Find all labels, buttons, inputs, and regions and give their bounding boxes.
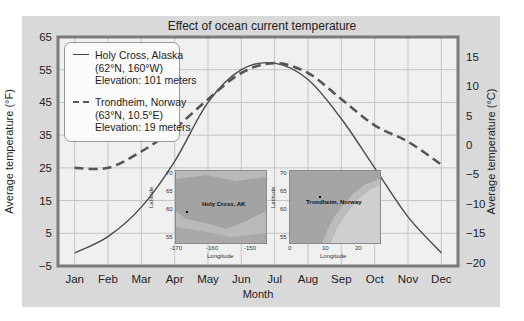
location-dot-icon — [319, 196, 321, 198]
y-tick-right: −10 — [466, 198, 486, 210]
solid-line-icon — [73, 54, 89, 55]
x-tick: Jul — [267, 273, 282, 285]
legend-label: Holy Cross, Alaska — [95, 49, 197, 62]
x-tick: Dec — [431, 273, 452, 285]
y-tick-left: 55 — [39, 64, 52, 76]
y-tick-left: 25 — [39, 162, 52, 174]
y-tick-left: 5 — [46, 227, 52, 239]
x-tick: Nov — [398, 273, 419, 285]
y-tick-left: 15 — [39, 195, 52, 207]
legend-label: Trondheim, Norway — [95, 96, 191, 109]
x-axis-label: Month — [243, 288, 274, 300]
y-tick-right: 10 — [466, 80, 479, 92]
y-tick-right: −20 — [466, 257, 486, 269]
dashed-line-icon — [73, 101, 89, 103]
y-tick-right: 15 — [466, 51, 479, 63]
legend: Holy Cross, Alaska (62°N, 160°W) Elevati… — [64, 42, 180, 142]
map-landmass — [290, 171, 380, 243]
y-tick-right: 5 — [466, 110, 472, 122]
y-tick-left: −5 — [39, 260, 52, 272]
x-tick: Aug — [298, 273, 318, 285]
x-tick: Apr — [166, 273, 184, 285]
x-tick: Feb — [98, 273, 118, 285]
inset-map-alaska: Holy Cross, AK — [175, 170, 267, 244]
x-tick: Oct — [366, 273, 385, 285]
legend-elevation: Elevation: 101 meters — [95, 74, 197, 87]
x-tick: Sep — [331, 273, 351, 285]
y-tick-right: −15 — [466, 227, 486, 239]
x-tick: Mar — [131, 273, 151, 285]
map-place-label: Trondheim, Norway — [306, 199, 362, 206]
x-tick: Jan — [65, 273, 84, 285]
y-tick-left: 35 — [39, 129, 52, 141]
y-tick-left: 45 — [39, 96, 52, 108]
inset-map-norway: Trondheim, Norway — [289, 170, 381, 244]
map-place-label: Holy Cross, AK — [202, 201, 245, 208]
y-tick-right: 0 — [466, 139, 472, 151]
y-axis-label-right: Average temperature (°C) — [485, 89, 497, 215]
legend-elevation: Elevation: 19 meters — [95, 121, 191, 134]
y-axis-label-left: Average temperature (°F) — [3, 89, 15, 214]
y-tick-right: −5 — [466, 168, 479, 180]
legend-coords: (62°N, 160°W) — [95, 62, 197, 75]
y-tick-left: 65 — [39, 31, 52, 43]
x-tick: Jun — [232, 273, 251, 285]
legend-coords: (63°N, 10.5°E) — [95, 109, 191, 122]
location-dot-icon — [186, 211, 188, 213]
x-tick: May — [197, 273, 219, 285]
